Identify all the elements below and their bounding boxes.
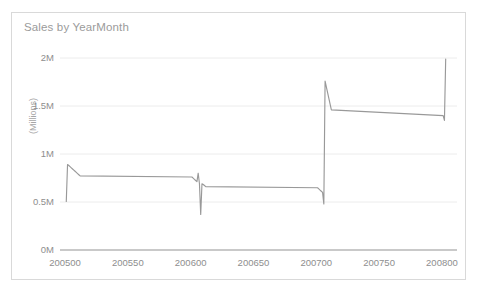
x-axis-tick-label: 200650 — [223, 257, 283, 268]
y-axis-tick-label: 1M — [12, 148, 54, 159]
x-axis-tick-label: 200600 — [161, 257, 221, 268]
chart-svg — [12, 13, 467, 281]
y-axis-tick-label: 0M — [12, 244, 54, 255]
x-axis-tick-label: 200550 — [98, 257, 158, 268]
x-axis-tick-label: 200700 — [286, 257, 346, 268]
plot-area — [12, 13, 467, 281]
x-axis-tick-label: 200800 — [412, 257, 472, 268]
chart-card: Sales by YearMonth (Millions) 0M0.5M1M1.… — [11, 12, 466, 280]
y-axis-tick-label: 1.5M — [12, 100, 54, 111]
series-line-sales — [66, 59, 445, 215]
y-axis-tick-label: 2M — [12, 52, 54, 63]
x-axis-tick-label: 200500 — [35, 257, 95, 268]
x-axis-tick-label: 200750 — [349, 257, 409, 268]
y-axis-tick-label: 0.5M — [12, 196, 54, 207]
